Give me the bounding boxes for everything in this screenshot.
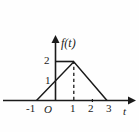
y-tick-label-2: 2 (44, 55, 50, 66)
triangular-waveform-figure: f(t) t 2 1 -1 O 1 2 3 (0, 0, 139, 132)
y-tick-label-1: 1 (45, 75, 51, 86)
origin-label: O (44, 104, 52, 115)
x-tick-label-2: 2 (88, 103, 94, 114)
x-tick-label-minus-1: -1 (26, 103, 35, 114)
x-tick-label-1: 1 (70, 103, 76, 114)
x-tick-label-3: 3 (106, 103, 112, 114)
x-axis-arrow-icon (128, 97, 136, 105)
x-axis-label: t (123, 106, 126, 117)
function-label: f(t) (61, 37, 76, 49)
y-axis-arrow-icon (52, 35, 60, 43)
